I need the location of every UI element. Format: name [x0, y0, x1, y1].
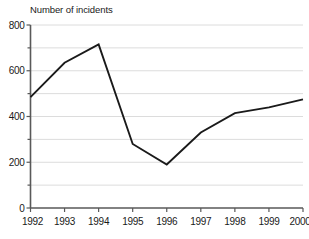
x-axis-label: 1994: [88, 216, 110, 227]
line-chart: Number of incidents 0200400600800 199219…: [0, 0, 309, 239]
x-axis-label: 1995: [122, 216, 144, 227]
x-axis-label: 2000: [289, 216, 309, 227]
y-axis-label: 0: [19, 203, 25, 214]
gridlines-group: [31, 25, 304, 185]
x-axis-label: 1997: [190, 216, 212, 227]
x-axis-label: 1999: [258, 216, 280, 227]
chart-plot-area: 0200400600800 19921993199419951996199719…: [0, 0, 309, 239]
x-axis-labels-group: 199219931994199519961997199819992000: [22, 216, 309, 227]
x-axis-label: 1998: [224, 216, 246, 227]
data-series-line: [31, 44, 304, 164]
x-axis-label: 1992: [22, 216, 44, 227]
y-axis-label: 400: [9, 111, 26, 122]
x-axis-label: 1993: [54, 216, 76, 227]
x-axis-label: 1996: [156, 216, 178, 227]
y-axis-label: 600: [9, 65, 26, 76]
y-axis-label: 200: [9, 157, 26, 168]
y-axis-labels-group: 0200400600800: [9, 20, 26, 214]
y-axis-label: 800: [9, 20, 26, 31]
